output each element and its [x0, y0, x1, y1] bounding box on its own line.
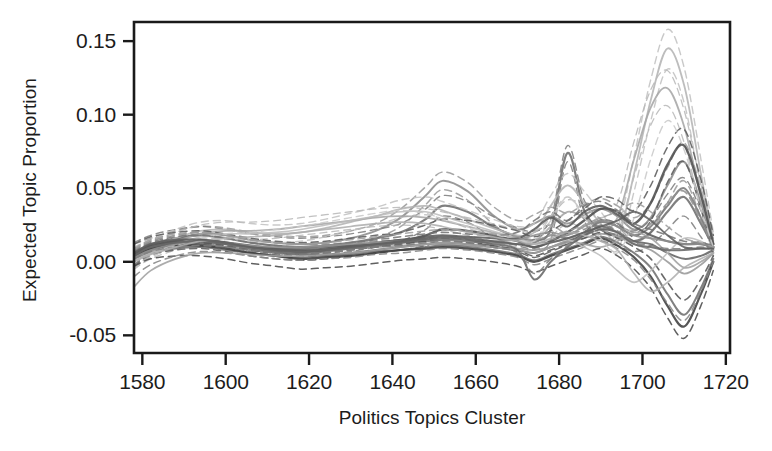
topic-proportion-line-chart: -0.050.000.050.100.15 158016001620164016…	[0, 0, 772, 451]
x-tick-label: 1580	[119, 370, 165, 393]
y-tick-label: 0.10	[76, 103, 116, 126]
x-axis-title: Politics Topics Cluster	[339, 407, 526, 428]
x-tick-label: 1600	[203, 370, 249, 393]
y-tick-label: 0.05	[76, 176, 116, 199]
x-tick-label: 1640	[369, 370, 415, 393]
y-tick-label: 0.00	[76, 250, 116, 273]
y-tick-label: -0.05	[69, 323, 116, 346]
y-tick-label: 0.15	[76, 29, 116, 52]
x-tick-label: 1620	[286, 370, 332, 393]
chart-figure: -0.050.000.050.100.15 158016001620164016…	[0, 0, 772, 451]
x-tick-label: 1680	[536, 370, 582, 393]
y-axis-title: Expected Topic Proportion	[19, 78, 40, 302]
x-tick-label: 1700	[620, 370, 666, 393]
x-tick-label: 1660	[453, 370, 499, 393]
x-tick-label: 1720	[703, 370, 749, 393]
